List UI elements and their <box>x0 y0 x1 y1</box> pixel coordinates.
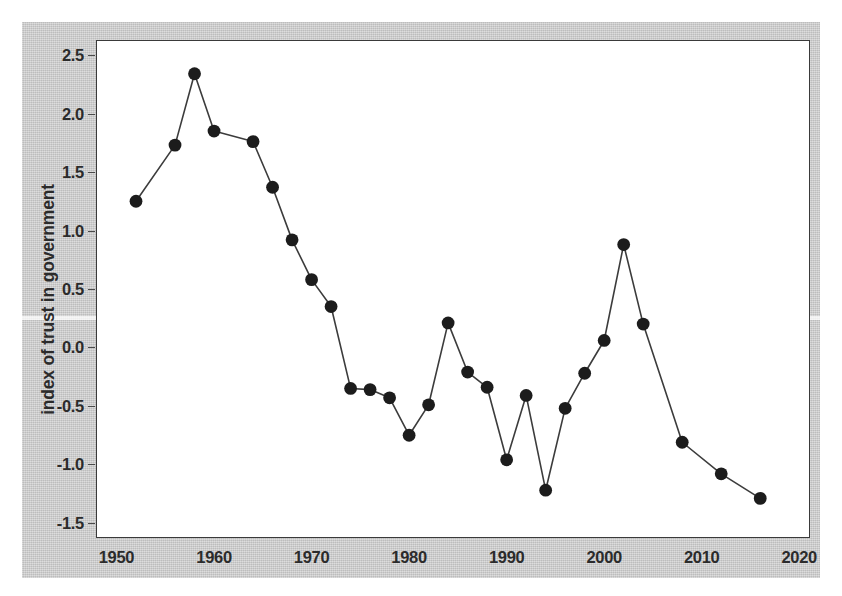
y-tick-mark <box>88 114 95 115</box>
x-tick-label: 2000 <box>586 548 622 567</box>
x-tick-label: 2010 <box>684 548 720 567</box>
data-point <box>266 181 279 194</box>
data-point <box>422 398 435 411</box>
data-point <box>169 139 182 152</box>
data-point <box>325 300 338 313</box>
data-point <box>578 367 591 380</box>
data-point <box>676 436 689 449</box>
x-tick-label: 1980 <box>391 548 427 567</box>
data-point <box>286 233 299 246</box>
y-tick-label: 2.0 <box>0 104 84 123</box>
x-tick-label: 2020 <box>781 548 817 567</box>
y-tick-mark <box>88 406 95 407</box>
plot-area <box>96 40 810 538</box>
y-tick-mark <box>88 172 95 173</box>
data-point <box>403 429 416 442</box>
data-point <box>188 67 201 80</box>
y-tick-label: 0.5 <box>0 280 84 299</box>
x-tick-label: 1990 <box>489 548 525 567</box>
y-tick-mark <box>88 464 95 465</box>
data-point <box>481 381 494 394</box>
y-tick-label: 0.0 <box>0 338 84 357</box>
data-point <box>208 125 221 138</box>
y-tick-mark <box>88 523 95 524</box>
y-tick-mark <box>88 347 95 348</box>
data-point <box>364 383 377 396</box>
data-point <box>305 273 318 286</box>
x-tick-label: 1960 <box>196 548 232 567</box>
data-point <box>559 402 572 415</box>
data-point <box>247 135 260 148</box>
x-tick-label: 1950 <box>99 548 135 567</box>
line-chart-svg <box>97 41 809 537</box>
figure-container: index of trust in government -1.5-1.0-0.… <box>0 0 842 596</box>
trust-index-line <box>136 74 760 499</box>
data-point <box>617 238 630 251</box>
trust-index-markers <box>130 67 767 504</box>
data-point <box>637 318 650 331</box>
y-tick-mark <box>88 289 95 290</box>
y-tick-label: 1.5 <box>0 163 84 182</box>
data-point <box>500 453 513 466</box>
x-tick-label: 1970 <box>294 548 330 567</box>
data-point <box>383 391 396 404</box>
y-tick-mark <box>88 231 95 232</box>
y-tick-label: -0.5 <box>0 396 84 415</box>
y-tick-label: 1.0 <box>0 221 84 240</box>
y-tick-label: -1.5 <box>0 513 84 532</box>
data-point <box>598 334 611 347</box>
y-tick-label: 2.5 <box>0 46 84 65</box>
y-tick-mark <box>88 55 95 56</box>
data-point <box>715 467 728 480</box>
data-point <box>520 389 533 402</box>
data-point <box>442 317 455 330</box>
y-axis-label: index of trust in government <box>38 85 59 515</box>
data-point <box>130 195 143 208</box>
data-point <box>539 484 552 497</box>
data-point <box>344 382 357 395</box>
data-point <box>461 366 474 379</box>
data-point <box>754 492 767 505</box>
y-tick-label: -1.0 <box>0 455 84 474</box>
